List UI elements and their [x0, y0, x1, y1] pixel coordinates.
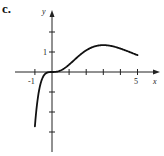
y-tick-label-1: 1: [43, 48, 47, 57]
chart: x y -1 5 1: [0, 0, 164, 156]
function-curve: [35, 45, 138, 126]
y-axis: [50, 10, 55, 152]
x-axis: [15, 70, 160, 75]
x-tick-label-neg1: -1: [28, 77, 35, 86]
y-axis-label: y: [41, 7, 46, 16]
x-axis-label: x: [152, 77, 157, 86]
y-axis-arrow-icon: [50, 10, 55, 17]
x-tick-label-5: 5: [134, 77, 138, 86]
x-axis-arrow-icon: [153, 70, 160, 75]
